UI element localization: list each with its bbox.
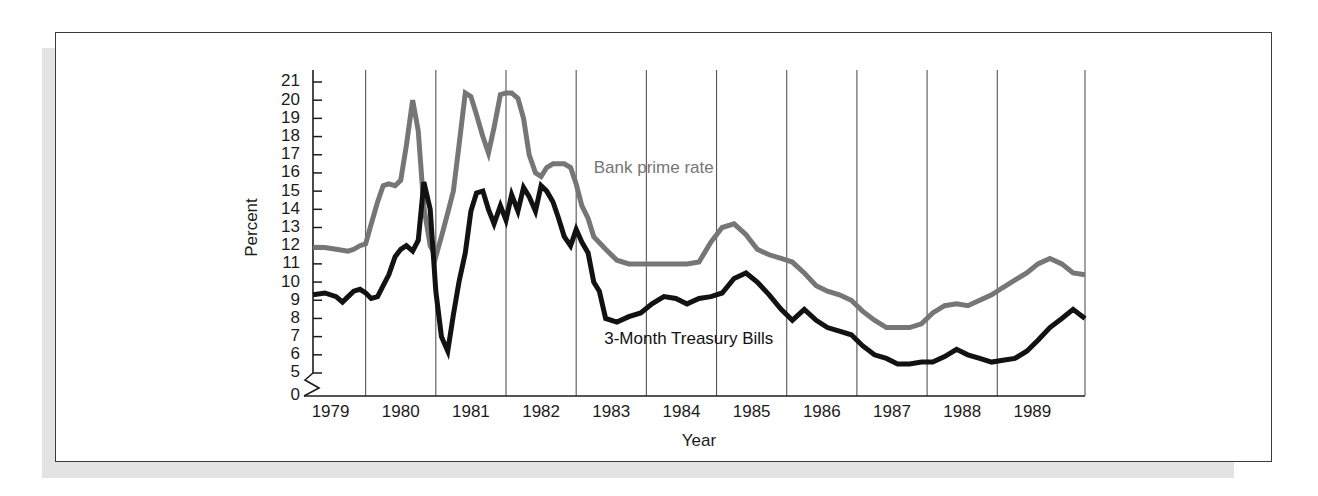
- figure-border: [55, 32, 1272, 462]
- figure-root: 567891011121314151617181920210 197919801…: [0, 0, 1318, 496]
